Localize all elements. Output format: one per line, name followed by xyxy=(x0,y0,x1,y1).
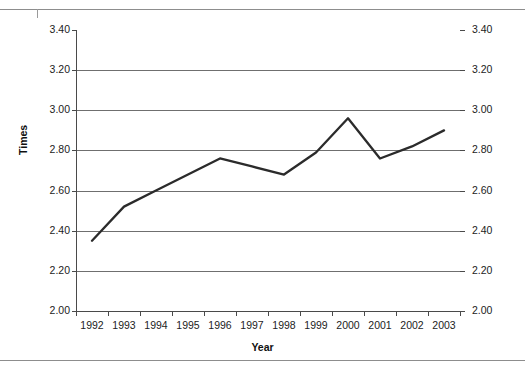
y-tick-label-left-text: 3.40 xyxy=(50,24,70,35)
y-tick-label-right-text: 2.60 xyxy=(472,185,492,196)
y-tick-label-right-text: 2.80 xyxy=(472,144,492,155)
y-tick-mark-left xyxy=(72,191,77,192)
y-tick-label-right-text: 2.40 xyxy=(472,225,492,236)
y-tick-mark-right xyxy=(460,231,465,232)
x-tick-mark xyxy=(268,311,269,316)
y-tick-mark-left xyxy=(72,30,77,31)
y-tick-label-right: 3.40 xyxy=(472,24,520,35)
y-tick-label-right: 2.00 xyxy=(472,305,520,316)
y-tick-label-left: 3.00 xyxy=(22,104,70,115)
gridline xyxy=(76,30,460,31)
x-tick-mark xyxy=(332,311,333,316)
y-tick-mark-left xyxy=(72,70,77,71)
gridline xyxy=(76,231,460,232)
y-tick-label-right-text: 3.40 xyxy=(472,24,492,35)
y-tick-mark-left xyxy=(72,231,77,232)
y-tick-label-left: 2.60 xyxy=(22,185,70,196)
x-tick-label: 2003 xyxy=(422,319,466,331)
chart-page: 3.403.203.002.802.602.402.202.00 3.403.2… xyxy=(0,0,525,373)
y-tick-label-left-text: 2.20 xyxy=(50,265,70,276)
y-tick-label-right-text: 2.00 xyxy=(472,305,492,316)
y-axis-title: Times xyxy=(17,125,29,155)
x-tick-mark xyxy=(428,311,429,316)
x-tick-mark xyxy=(108,311,109,316)
x-tick-mark xyxy=(76,311,77,316)
y-tick-label-right: 3.00 xyxy=(472,104,520,115)
y-tick-label-left-text: 2.80 xyxy=(50,144,70,155)
gridline xyxy=(76,271,460,272)
y-tick-label-left-text: 3.00 xyxy=(50,104,70,115)
gridline xyxy=(76,150,460,151)
y-tick-label-right-text: 3.20 xyxy=(472,64,492,75)
y-tick-mark-left xyxy=(72,150,77,151)
y-tick-label-left: 2.00 xyxy=(22,305,70,316)
y-tick-mark-right xyxy=(460,30,465,31)
y-tick-label-left-text: 2.40 xyxy=(50,225,70,236)
gridline xyxy=(76,70,460,71)
x-tick-mark xyxy=(396,311,397,316)
y-tick-label-right: 2.20 xyxy=(472,265,520,276)
y-tick-mark-right xyxy=(460,70,465,71)
plot-area xyxy=(76,30,460,311)
y-tick-mark-left xyxy=(72,271,77,272)
x-axis-title: Year xyxy=(0,341,525,353)
gridline xyxy=(76,110,460,111)
x-tick-mark xyxy=(364,311,365,316)
y-tick-label-left-text: 2.00 xyxy=(50,305,70,316)
y-tick-mark-right xyxy=(460,150,465,151)
y-tick-mark-left xyxy=(72,110,77,111)
y-tick-label-right: 3.20 xyxy=(472,64,520,75)
x-tick-mark xyxy=(172,311,173,316)
y-tick-label-right: 2.40 xyxy=(472,225,520,236)
x-tick-mark xyxy=(140,311,141,316)
y-tick-label-left: 2.80 xyxy=(22,144,70,155)
y-tick-label-right: 2.80 xyxy=(472,144,520,155)
y-tick-label-left: 2.20 xyxy=(22,265,70,276)
y-tick-mark-right xyxy=(460,271,465,272)
x-tick-mark xyxy=(460,311,461,316)
x-tick-mark xyxy=(236,311,237,316)
y-tick-label-left: 3.20 xyxy=(22,64,70,75)
y-tick-label-left: 2.40 xyxy=(22,225,70,236)
y-tick-label-left-text: 2.60 xyxy=(50,185,70,196)
line-chart: 3.403.203.002.802.602.402.202.00 3.403.2… xyxy=(0,0,525,373)
y-tick-label-right-text: 2.20 xyxy=(472,265,492,276)
y-tick-label-left-text: 3.20 xyxy=(50,64,70,75)
gridline xyxy=(76,191,460,192)
y-tick-mark-right xyxy=(460,110,465,111)
x-tick-mark xyxy=(300,311,301,316)
x-tick-mark xyxy=(204,311,205,316)
y-tick-label-left: 3.40 xyxy=(22,24,70,35)
y-axis-right-line xyxy=(460,30,461,311)
y-tick-label-right: 2.60 xyxy=(472,185,520,196)
y-tick-mark-right xyxy=(460,191,465,192)
y-tick-label-right-text: 3.00 xyxy=(472,104,492,115)
